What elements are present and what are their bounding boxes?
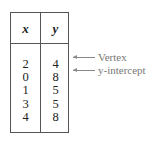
- cell-x: 4: [11, 111, 40, 124]
- annotation-label: y-intercept: [98, 64, 146, 76]
- annotation-label: Vertex: [98, 51, 127, 63]
- cell-x: 1: [11, 84, 40, 97]
- column-y: 4 8 5 5 8: [41, 58, 70, 124]
- annotation-vertex: Vertex: [73, 51, 127, 63]
- left-arrow-icon: [73, 70, 95, 71]
- cell-y: 5: [41, 98, 70, 111]
- header-divider: [11, 43, 68, 44]
- left-arrow-icon: [73, 57, 95, 58]
- header-y: y: [41, 21, 70, 37]
- cell-y: 8: [41, 111, 70, 124]
- xy-table: x y 2 0 1 3 4 4 8 5 5 8: [10, 12, 69, 133]
- annotation-y-intercept: y-intercept: [73, 64, 146, 76]
- column-x: 2 0 1 3 4: [11, 58, 40, 124]
- cell-y: 5: [41, 84, 70, 97]
- header-x: x: [11, 21, 40, 37]
- cell-x: 3: [11, 98, 40, 111]
